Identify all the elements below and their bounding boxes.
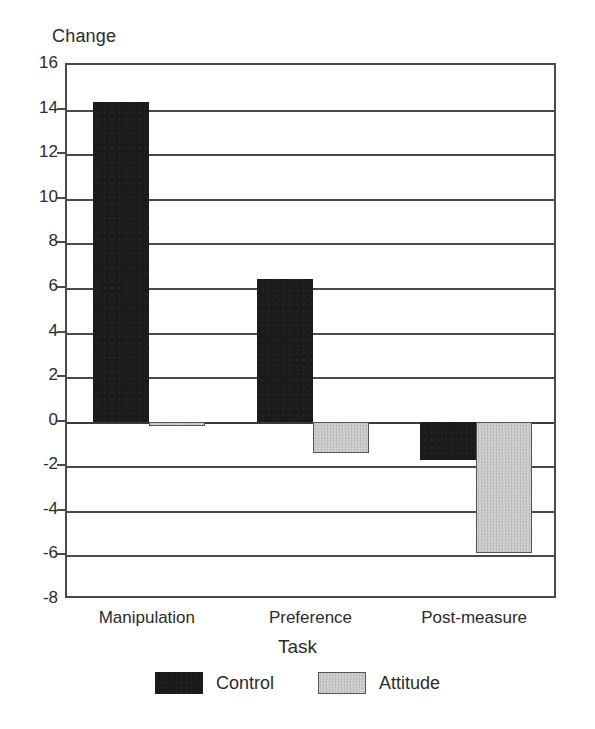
y-tick-mark [57, 197, 65, 199]
x-tick-label-manipulation: Manipulation [99, 608, 195, 628]
y-tick-label: 8 [12, 231, 58, 251]
y-tick-label: -8 [12, 588, 58, 608]
bar-control-post-measure [420, 422, 476, 460]
bar-chart: Change 1614121086420-2-4-6-8 Manipulatio… [0, 0, 595, 729]
y-tick-label: 16 [12, 53, 58, 73]
y-tick-label: 4 [12, 321, 58, 341]
x-tick-label-post-measure: Post-measure [421, 608, 527, 628]
legend-label: Control [216, 673, 274, 694]
y-tick-mark [57, 420, 65, 422]
y-tick-mark [57, 464, 65, 466]
y-tick-mark [57, 241, 65, 243]
y-tick-mark [57, 331, 65, 333]
attitude-swatch [318, 672, 366, 694]
legend-label: Attitude [379, 673, 440, 694]
y-tick-label: 0 [12, 410, 58, 430]
y-tick-mark [57, 509, 65, 511]
plot-area [65, 63, 556, 598]
y-tick-label: 6 [12, 276, 58, 296]
chart-legend: ControlAttitude [0, 672, 595, 694]
x-tick-label-preference: Preference [269, 608, 352, 628]
bar-attitude-post-measure [476, 422, 532, 554]
y-tick-label: -4 [12, 499, 58, 519]
y-tick-mark [57, 108, 65, 110]
y-tick-label: -2 [12, 454, 58, 474]
y-tick-mark [57, 286, 65, 288]
bar-control-preference [257, 279, 313, 422]
y-tick-label: 12 [12, 142, 58, 162]
x-axis-title: Task [0, 636, 595, 658]
y-tick-label: 10 [12, 187, 58, 207]
bar-attitude-preference [313, 422, 369, 453]
y-tick-mark [57, 553, 65, 555]
control-swatch [155, 672, 203, 694]
y-tick-label: -6 [12, 543, 58, 563]
y-tick-label: 2 [12, 365, 58, 385]
legend-item-control: Control [155, 672, 274, 694]
y-tick-mark [57, 152, 65, 154]
y-tick-mark [57, 375, 65, 377]
bar-control-manipulation [93, 102, 149, 422]
y-tick-label: 14 [12, 98, 58, 118]
y-axis-title: Change [52, 26, 116, 47]
legend-item-attitude: Attitude [318, 672, 440, 694]
bars-layer [67, 65, 554, 596]
bar-attitude-manipulation [149, 422, 205, 426]
